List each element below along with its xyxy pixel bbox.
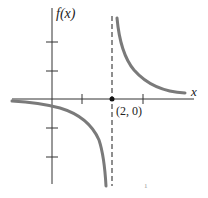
point-label: (2, 0) — [116, 104, 142, 119]
curve-right-branch — [117, 18, 185, 93]
x-axis-label: x — [191, 84, 197, 100]
stray-mark: 1 — [144, 182, 148, 190]
y-axis-label: f(x) — [56, 6, 75, 22]
function-graph — [0, 0, 208, 198]
curve-left-branch — [12, 101, 106, 186]
point-2-0 — [110, 97, 115, 102]
